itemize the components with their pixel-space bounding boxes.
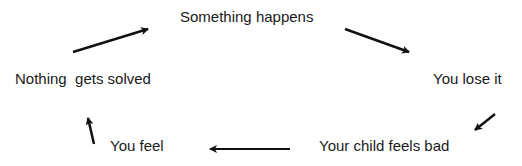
node-your-child-feels-bad: Your child feels bad bbox=[319, 137, 449, 155]
arrow-n1-to-n2 bbox=[345, 29, 409, 52]
arrow-n5-to-n1 bbox=[73, 29, 148, 52]
node-you-feel: You feel bbox=[110, 137, 164, 155]
node-nothing-gets-solved: Nothing gets solved bbox=[15, 70, 151, 88]
node-you-lose-it: You lose it bbox=[433, 70, 502, 88]
arrow-n2-to-n3 bbox=[475, 114, 495, 130]
arrow-n4-to-n5 bbox=[88, 118, 94, 144]
node-something-happens: Something happens bbox=[180, 8, 313, 26]
